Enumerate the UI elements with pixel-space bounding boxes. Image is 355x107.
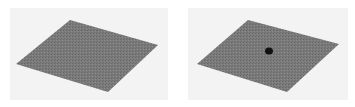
dot-marker [265,48,273,55]
figure [0,0,355,107]
